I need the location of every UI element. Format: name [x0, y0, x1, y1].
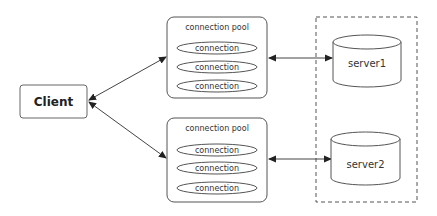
server2-database: server2 — [331, 132, 400, 185]
connection-label: connection — [195, 184, 239, 193]
connection-label: connection — [195, 44, 239, 53]
connection-label: connection — [195, 63, 239, 72]
client-pool2-arrow — [89, 102, 166, 158]
connection-item: connection — [177, 162, 257, 174]
connection-item: connection — [177, 42, 257, 54]
connection-item: connection — [177, 61, 257, 73]
server2-label: server2 — [346, 159, 384, 170]
connection-label: connection — [195, 164, 239, 173]
server1-label: server1 — [348, 58, 386, 69]
connection-pool-2: connection pool connection connection co… — [167, 118, 267, 202]
connection-item: connection — [177, 182, 257, 194]
client-pool1-arrow — [89, 57, 166, 100]
connection-item: connection — [177, 80, 257, 92]
connection-label: connection — [195, 82, 239, 91]
diagram-canvas: Client connection pool connection connec… — [0, 0, 437, 216]
server1-database: server1 — [333, 35, 401, 87]
connection-item: connection — [177, 144, 257, 156]
connection-label: connection — [195, 146, 239, 155]
pool-title: connection pool — [185, 124, 249, 133]
connection-pool-1: connection pool connection connection co… — [167, 17, 267, 98]
pool-title: connection pool — [185, 23, 249, 32]
client-label: Client — [34, 95, 74, 109]
client-node: Client — [20, 85, 87, 118]
